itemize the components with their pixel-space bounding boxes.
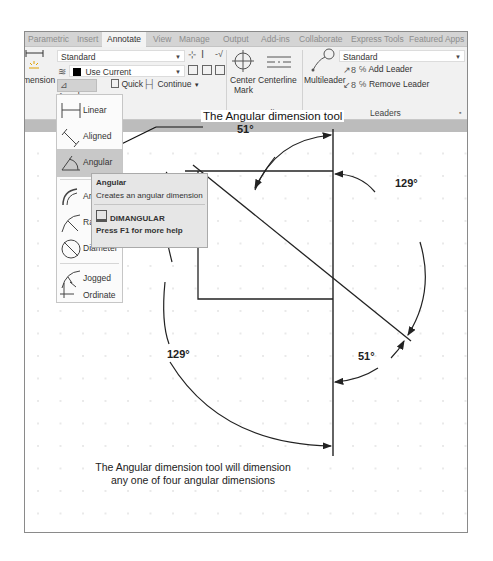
menu-item-label: Angular — [83, 157, 112, 167]
tooltip-command: DIMANGULAR — [96, 210, 165, 223]
menu-item-aligned[interactable]: Aligned — [57, 123, 122, 149]
ordinate-icon — [60, 281, 82, 299]
tooltip-description: Creates an angular dimension — [96, 191, 203, 200]
tooltip-help: Press F1 for more help — [96, 226, 183, 235]
dim-label-129-left: 129° — [167, 348, 190, 360]
autocad-window: Parametric Insert Annotate View Manage O… — [24, 31, 468, 533]
menu-item-label: Aligned — [83, 131, 111, 141]
menu-item-linear[interactable]: Linear — [57, 97, 122, 123]
caption-line-1: The Angular dimension tool will dimensio… — [91, 461, 295, 474]
dim-label-129-right: 129° — [395, 177, 418, 189]
aligned-dim-icon — [60, 126, 82, 148]
menu-item-label: Jogged — [83, 273, 111, 283]
menu-item-ordinate[interactable]: Ordinate — [57, 287, 122, 303]
menu-separator — [60, 263, 119, 264]
arc-length-icon — [60, 186, 82, 208]
menu-item-label: Linear — [83, 105, 107, 115]
radius-icon — [60, 212, 82, 234]
menu-item-label: Ordinate — [83, 290, 116, 300]
diameter-icon — [60, 238, 82, 260]
command-line-icon — [96, 210, 107, 222]
tooltip-command-name: DIMANGULAR — [110, 214, 165, 223]
linear-dim-icon — [60, 100, 82, 120]
caption-line-2: any one of four angular dimensions — [91, 474, 295, 487]
angular-dim-icon — [60, 152, 82, 174]
tooltip-title: Angular — [96, 178, 126, 187]
callout-label: The Angular dimension tool — [201, 110, 344, 122]
caption: The Angular dimension tool will dimensio… — [91, 461, 295, 487]
dim-label-51-bottom: 51° — [358, 350, 375, 362]
tooltip-divider — [94, 204, 205, 205]
dim-label-51-top: 51° — [237, 123, 254, 135]
angular-tooltip: Angular Creates an angular dimension DIM… — [91, 173, 208, 248]
